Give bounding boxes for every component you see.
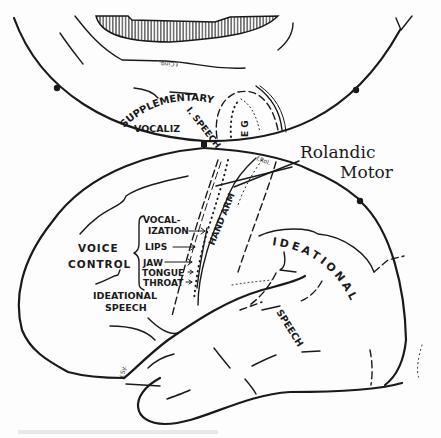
motor-strip-posterior-dotted (238, 160, 262, 205)
midline-marker (201, 140, 207, 147)
motor-label: Motor (340, 162, 394, 182)
speech-label-tick-top (262, 306, 280, 310)
landmark-dot-right (353, 87, 359, 93)
rolandic-pointer-line-2 (216, 167, 292, 186)
motor-strip-anterior-inner (189, 162, 221, 264)
medial-hemisphere-view: f.Cing. SUPPLEMENTARY M. I. SPEECH VOCAL… (0, 0, 412, 150)
arrow-icon (173, 244, 195, 250)
landmark-dot-left (54, 85, 60, 91)
motor-item-vocal: VOCAL- (143, 215, 181, 225)
ideational-speech-anterior-label-1: IDEATIONAL (93, 290, 157, 301)
outline-top-notch (396, 16, 412, 30)
corpus-callosum (96, 16, 278, 42)
ideational-speech-anterior-label-2: SPEECH (105, 302, 147, 313)
sulcus-fragment (60, 33, 83, 64)
motor-item-jaw: JAW (142, 258, 163, 268)
speech-cortex-diagram: f.Cing. SUPPLEMENTARY M. I. SPEECH VOCAL… (0, 0, 441, 438)
posterior-dots (418, 345, 422, 378)
motor-item-throat: THROAT (143, 278, 184, 288)
motor-item-ization: IZATION (148, 226, 189, 236)
arrow-icon (186, 280, 192, 284)
sulcus-fragment (134, 88, 158, 98)
fissure-edge-dots (232, 280, 272, 285)
vocaliz-label: VOCALIZ (134, 123, 180, 134)
temporal-sulcus-fragment (245, 379, 256, 394)
temporal-sulcus-fragment (252, 355, 276, 366)
arrow-icon (165, 259, 192, 265)
ideational-area-dashed-right (374, 256, 404, 272)
speech-posterior-label: SPEECH (274, 307, 305, 348)
rolandic-label: Rolandic (300, 142, 375, 162)
voice-label: VOICE (78, 242, 119, 254)
medial-gyrus-line (256, 86, 282, 130)
lateral-hemisphere-view: f.Sy. f.Rol. Rolandic Motor HAND ARM VOI… (19, 142, 422, 424)
temporal-sulcus-fragment (167, 390, 190, 399)
cingulate-sulcus-label: f.Cing. (159, 60, 178, 68)
sylvian-branch (110, 326, 155, 340)
ideational-area-dashed (298, 281, 322, 302)
eg-region-dotted (231, 100, 240, 137)
caption-illegible (18, 430, 218, 434)
sylvian-branch-upper (148, 318, 178, 333)
temporal-dashed-right (370, 350, 372, 385)
temporal-lobe-outline (138, 378, 402, 424)
speech-label-tick-bottom (302, 351, 320, 352)
frontal-sulcus-inferior (96, 270, 120, 284)
temporal-sulcus-fragment (148, 354, 174, 368)
arrow-icon (189, 228, 205, 234)
sulcus-fragment (278, 23, 293, 50)
arrow-icon (188, 270, 193, 274)
temporal-sulcus-fragment (214, 348, 230, 368)
motor-item-lips: LIPS (145, 242, 167, 252)
motor-item-tongue: TONGUE (142, 268, 184, 278)
lateral-outline-posterior (360, 201, 406, 385)
temporal-sulcus-fragment (126, 384, 160, 386)
ideational-area-branch (280, 252, 296, 272)
eg-label: E G (240, 120, 250, 137)
hand-arm-label: HAND ARM (207, 192, 237, 247)
control-label: CONTROL (68, 258, 131, 270)
motor-representation-list: VOCAL- IZATION LIPS JAW TONGUE THROAT (142, 215, 189, 288)
